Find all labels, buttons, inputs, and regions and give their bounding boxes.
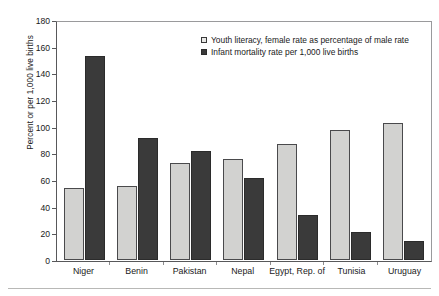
x-axis-label: Benin	[110, 266, 163, 276]
bar-mortality	[244, 178, 264, 260]
y-axis-tick-label: 180	[22, 16, 50, 26]
bar-literacy	[223, 159, 243, 260]
bar-group	[271, 22, 324, 260]
bottom-divider	[8, 288, 431, 289]
bar-group	[164, 22, 217, 260]
y-axis-tick-mark	[52, 154, 56, 155]
y-axis-tick-label: 120	[22, 96, 50, 106]
y-axis-tick-label: 60	[22, 176, 50, 186]
y-axis-tick-label: 0	[22, 256, 50, 266]
bar-group	[111, 22, 164, 260]
bar-group	[377, 22, 430, 260]
bar-mortality	[85, 56, 105, 260]
legend-item: Youth literacy, female rate as percentag…	[201, 35, 409, 45]
bar-chart-figure: Percent or per 1,000 live births 1801601…	[0, 0, 439, 296]
y-axis-tick-mark	[52, 128, 56, 129]
y-axis-tick-mark	[52, 21, 56, 22]
y-axis-tick-label: 140	[22, 69, 50, 79]
bar-literacy	[64, 188, 84, 260]
bar-mortality	[298, 215, 318, 260]
bar-literacy	[383, 123, 403, 260]
bar-mortality	[351, 232, 371, 260]
y-axis-tick-label: 80	[22, 149, 50, 159]
y-axis-tick-mark	[52, 234, 56, 235]
chart-legend: Youth literacy, female rate as percentag…	[201, 35, 409, 57]
legend-item-label: Youth literacy, female rate as percentag…	[211, 35, 409, 45]
x-axis-labels: NigerBeninPakistanNepalEgypt, Rep. ofTun…	[57, 266, 431, 276]
bar-literacy	[330, 130, 350, 260]
bar-mortality	[138, 138, 158, 260]
bar-mortality	[404, 241, 424, 260]
bar-group	[217, 22, 270, 260]
x-axis-label: Uruguay	[378, 266, 431, 276]
filled-square-marker	[201, 49, 207, 55]
y-axis-tick-label: 100	[22, 123, 50, 133]
plot-area	[56, 21, 432, 262]
y-axis-tick-mark	[52, 101, 56, 102]
y-axis-tick-mark	[52, 48, 56, 49]
bar-group	[324, 22, 377, 260]
x-axis-label: Egypt, Rep. of	[269, 266, 325, 276]
open-square-marker	[201, 37, 207, 43]
x-axis-label: Nepal	[216, 266, 269, 276]
x-axis-label: Pakistan	[163, 266, 216, 276]
y-axis-tick-mark	[52, 261, 56, 262]
legend-item: Infant mortality rate per 1,000 live bir…	[201, 47, 409, 57]
x-axis-label: Tunisia	[325, 266, 378, 276]
y-axis-tick-mark	[52, 181, 56, 182]
y-axis-tick-label: 40	[22, 203, 50, 213]
bar-groups	[58, 22, 430, 260]
bar-group	[58, 22, 111, 260]
bar-literacy	[170, 163, 190, 260]
bar-literacy	[277, 144, 297, 260]
bar-literacy	[117, 186, 137, 260]
legend-item-label: Infant mortality rate per 1,000 live bir…	[211, 47, 358, 57]
x-axis-label: Niger	[57, 266, 110, 276]
y-axis-tick-mark	[52, 208, 56, 209]
y-axis-tick-label: 20	[22, 229, 50, 239]
bar-mortality	[191, 151, 211, 260]
y-axis-tick-mark	[52, 74, 56, 75]
y-axis-tick-label: 160	[22, 43, 50, 53]
